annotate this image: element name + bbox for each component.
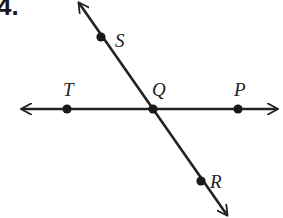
point-s-dot [96, 32, 105, 41]
diagram-canvas [0, 0, 283, 218]
point-p-dot [233, 104, 242, 113]
point-q-label: Q [152, 80, 166, 99]
diagram: 4. S T Q P R [0, 0, 283, 218]
point-t-label: T [63, 80, 74, 99]
point-t-dot [62, 104, 71, 113]
point-r-dot [196, 176, 205, 185]
point-p-label: P [234, 80, 246, 99]
point-r-label: R [210, 172, 222, 191]
point-q-dot [148, 104, 157, 113]
point-s-label: S [115, 31, 125, 50]
